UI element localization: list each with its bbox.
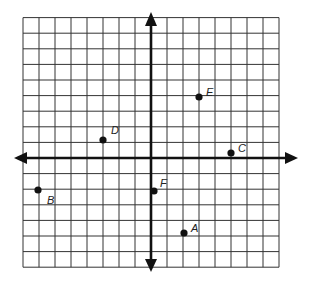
point-dot-icon — [195, 93, 202, 100]
point-f: F — [150, 177, 168, 195]
point-label: D — [111, 124, 119, 136]
x-axis-right-arrow-icon — [285, 152, 298, 164]
point-c: C — [227, 142, 246, 157]
point-dot-icon — [150, 187, 157, 194]
points: ABCDEF — [34, 86, 246, 237]
point-e: E — [195, 86, 214, 101]
y-axis-down-arrow-icon — [145, 259, 157, 272]
point-label: E — [206, 86, 214, 98]
x-axis-left-arrow-icon — [14, 152, 27, 164]
coordinate-plane: ABCDEF — [0, 0, 311, 285]
point-label: A — [190, 222, 198, 234]
point-dot-icon — [34, 186, 41, 193]
point-dot-icon — [99, 136, 106, 143]
y-axis-up-arrow-icon — [145, 12, 157, 26]
point-dot-icon — [227, 149, 234, 156]
point-dot-icon — [180, 229, 187, 236]
point-label: C — [238, 142, 246, 154]
point-label: B — [47, 194, 54, 206]
